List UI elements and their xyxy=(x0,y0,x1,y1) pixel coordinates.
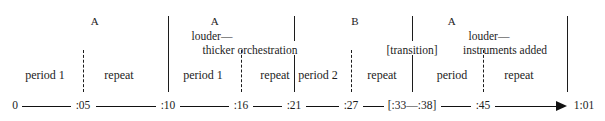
period-label-2: period 1 xyxy=(183,69,223,81)
repeat-label-1: repeat xyxy=(104,69,133,81)
axis-segment-1 xyxy=(22,106,71,107)
tick-label-1-01: 1:01 xyxy=(572,100,596,112)
annotation-thicker-orchestration: thicker orchestration xyxy=(203,45,298,57)
period-label-3: period 2 xyxy=(298,69,338,81)
tick-label-0: 0 xyxy=(10,100,20,112)
annotation-instruments-added: instruments added xyxy=(463,45,547,57)
repeat-divider-1 xyxy=(83,50,84,92)
section-letter-a3: A xyxy=(448,16,456,27)
section-divider-4 xyxy=(567,16,568,92)
tick-label-27: :27 xyxy=(342,100,361,112)
section-divider-2-lower xyxy=(294,55,295,92)
tick-label-16: :16 xyxy=(232,100,251,112)
tick-label-45: :45 xyxy=(474,100,493,112)
repeat-label-2: repeat xyxy=(260,69,289,81)
axis-segment-6 xyxy=(363,106,384,107)
axis-segment-5 xyxy=(306,106,339,107)
tick-label-21: :21 xyxy=(285,100,304,112)
repeat-divider-4 xyxy=(483,50,484,92)
annotation-louder-2: louder— xyxy=(469,31,510,43)
repeat-divider-3 xyxy=(351,50,352,92)
axis-arrowhead-icon xyxy=(556,101,567,111)
axis-segment-4 xyxy=(253,106,282,107)
axis-segment-2 xyxy=(96,106,156,107)
section-letter-b: B xyxy=(351,16,359,27)
repeat-label-3: repeat xyxy=(367,69,396,81)
tick-label-10: :10 xyxy=(159,100,178,112)
axis-segment-3 xyxy=(180,106,229,107)
tick-label-05: :05 xyxy=(74,100,93,112)
period-label-4: period xyxy=(437,69,468,81)
annotation-louder-1: louder— xyxy=(192,31,233,43)
period-label-1: period 1 xyxy=(25,69,65,81)
tick-label-transition-range: [:33—:38] xyxy=(386,100,439,112)
axis-segment-8 xyxy=(495,106,561,107)
section-letter-a1: A xyxy=(91,16,99,27)
section-letter-a2: A xyxy=(211,16,219,27)
musical-form-diagram: A A B A louder— thicker orchestration [t… xyxy=(0,0,605,121)
axis-segment-7 xyxy=(441,106,471,107)
section-divider-3-lower xyxy=(412,55,413,92)
section-divider-1 xyxy=(168,16,169,92)
repeat-label-4: repeat xyxy=(504,69,533,81)
repeat-divider-2 xyxy=(241,50,242,92)
section-divider-2-upper xyxy=(294,16,295,41)
section-divider-3-upper xyxy=(412,16,413,41)
